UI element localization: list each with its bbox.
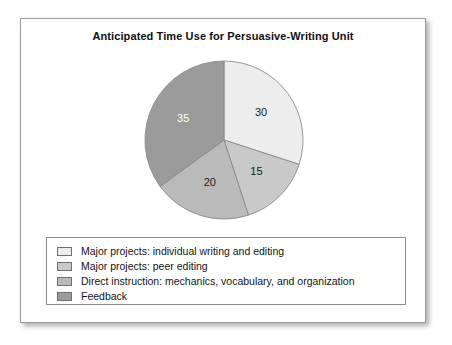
legend-item-label: Major projects: peer editing <box>81 260 208 272</box>
chart-legend: Major projects: individual writing and e… <box>46 237 406 305</box>
chart-card: Anticipated Time Use for Persuasive-Writ… <box>20 18 426 323</box>
legend-item-label: Direct instruction: mechanics, vocabular… <box>81 275 355 287</box>
legend-item: Direct instruction: mechanics, vocabular… <box>57 274 405 288</box>
legend-swatch-icon <box>57 292 72 301</box>
pie-slice-value-label: 20 <box>204 176 216 188</box>
pie-slice-value-label: 30 <box>255 106 267 118</box>
legend-item: Major projects: peer editing <box>57 259 405 273</box>
pie-chart: 30152035 <box>132 56 316 224</box>
legend-item: Major projects: individual writing and e… <box>57 244 405 258</box>
legend-item-label: Major projects: individual writing and e… <box>81 245 284 257</box>
pie-slice-group <box>145 61 303 219</box>
legend-item: Feedback <box>57 289 405 303</box>
legend-swatch-icon <box>57 277 72 286</box>
pie-slice-value-label: 35 <box>177 112 189 124</box>
pie-chart-area: 30152035 <box>21 19 427 224</box>
legend-swatch-icon <box>57 262 72 271</box>
pie-slice-value-label: 15 <box>250 165 262 177</box>
legend-item-label: Feedback <box>81 290 127 302</box>
legend-swatch-icon <box>57 247 72 256</box>
